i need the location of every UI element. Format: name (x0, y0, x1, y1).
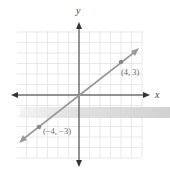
y-axis-down-arrow-icon (76, 160, 82, 167)
x-axis-left-arrow-icon (11, 92, 18, 98)
point-neg4-neg3 (37, 125, 41, 129)
coordinate-plane: x y (4, 3) (−4, −3) (0, 0, 170, 180)
y-axis-up-arrow-icon (76, 22, 82, 29)
chart-svg: x y (4, 3) (−4, −3) (0, 0, 170, 180)
scan-band (20, 107, 170, 118)
point-label-4-3: (4, 3) (121, 67, 140, 77)
point-label-neg4-neg3: (−4, −3) (43, 126, 71, 136)
point-4-3 (119, 60, 123, 64)
x-axis-right-arrow-icon (143, 92, 150, 98)
x-axis-label: x (154, 89, 160, 100)
y-axis-label: y (75, 5, 81, 16)
